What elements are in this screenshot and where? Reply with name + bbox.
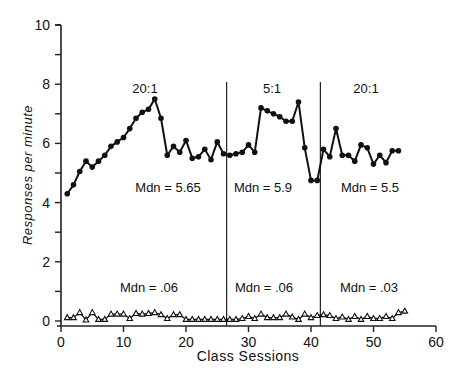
data-point [77, 169, 83, 175]
y-ticks: 0246810 [34, 17, 61, 329]
data-point [314, 313, 320, 318]
data-point [308, 178, 314, 184]
data-point [389, 148, 395, 154]
data-point [371, 161, 377, 167]
data-point [196, 154, 202, 160]
data-point [221, 151, 227, 157]
x-ticks: 0102030405060 [57, 326, 444, 350]
data-point [177, 312, 183, 317]
data-point [133, 310, 139, 315]
data-point [252, 316, 258, 321]
data-point [339, 314, 345, 319]
data-point [402, 308, 408, 313]
y-tick-label: 8 [42, 76, 50, 92]
data-point [371, 316, 377, 321]
y-tick-label: 2 [42, 254, 50, 270]
data-point [108, 144, 114, 150]
data-point [383, 160, 389, 166]
data-point [352, 313, 358, 318]
data-point [264, 108, 270, 114]
data-point [377, 316, 383, 321]
data-point [377, 152, 383, 158]
data-point [289, 118, 295, 124]
data-point [339, 152, 345, 158]
data-point [214, 316, 220, 321]
data-point [271, 111, 277, 117]
data-point [258, 311, 264, 316]
data-point [264, 315, 270, 320]
phase-3-median-lower: Mdn = .03 [340, 280, 398, 295]
x-tick-label: 50 [366, 334, 382, 350]
x-tick-label: 60 [428, 334, 444, 350]
data-point [358, 142, 364, 148]
data-point [71, 182, 77, 188]
data-point [214, 139, 220, 145]
data-point [177, 149, 183, 155]
data-point [77, 310, 83, 315]
phase-2-label: 5:1 [263, 81, 281, 96]
data-point [283, 311, 289, 316]
data-point [333, 126, 339, 132]
data-point [89, 310, 95, 315]
phase-2-median-lower: Mdn = .06 [235, 280, 293, 295]
data-point [364, 145, 370, 151]
data-point [139, 311, 145, 316]
data-point [252, 149, 258, 155]
data-point [289, 314, 295, 319]
x-tick-label: 40 [303, 334, 319, 350]
data-point [171, 312, 177, 317]
data-point [308, 315, 314, 320]
data-point [383, 313, 389, 318]
data-point [321, 147, 327, 153]
data-point [139, 110, 145, 116]
line-chart: 0246810 0102030405060 Class Sessions Res… [0, 0, 463, 383]
data-point [196, 316, 202, 321]
phase-3-median-upper: Mdn = 5.5 [341, 180, 399, 195]
data-point [321, 312, 327, 317]
data-point [352, 158, 358, 164]
data-point [327, 313, 333, 318]
y-tick-label: 4 [42, 195, 50, 211]
data-point [121, 311, 127, 316]
data-point [164, 316, 170, 321]
data-point [158, 115, 164, 121]
data-point [114, 311, 120, 316]
data-point [233, 151, 239, 157]
phase-2-median-upper: Mdn = 5.9 [234, 180, 292, 195]
data-point [202, 147, 208, 153]
lower-series-open-triangles [64, 308, 407, 322]
phase-1-median-upper: Mdn = 5.65 [135, 180, 200, 195]
data-point [221, 316, 227, 321]
data-point [152, 96, 158, 102]
data-point [89, 164, 95, 170]
data-point [239, 149, 245, 155]
data-point [121, 135, 127, 141]
data-point [346, 152, 352, 158]
data-point [189, 155, 195, 161]
data-point [158, 312, 164, 317]
y-tick-label: 10 [34, 17, 50, 33]
data-point [302, 145, 308, 151]
x-tick-label: 0 [57, 334, 65, 350]
y-axis [55, 25, 61, 326]
phase-1-median-lower: Mdn = .06 [120, 280, 178, 295]
data-point [102, 152, 108, 158]
data-point [277, 315, 283, 320]
data-point [146, 310, 152, 315]
data-point [277, 114, 283, 120]
data-point [302, 311, 308, 316]
data-point [64, 191, 70, 197]
data-point [171, 144, 177, 150]
y-axis-label: Responses per minute [20, 105, 35, 245]
data-point [208, 316, 214, 321]
data-point [358, 316, 364, 321]
data-point [164, 152, 170, 158]
data-point [283, 118, 289, 124]
x-axis-label: Class Sessions [197, 348, 300, 364]
data-point [189, 316, 195, 321]
y-tick-label: 6 [42, 135, 50, 151]
data-point [114, 139, 120, 145]
data-point [246, 313, 252, 318]
data-point [83, 158, 89, 164]
y-tick-label: 0 [42, 313, 50, 329]
